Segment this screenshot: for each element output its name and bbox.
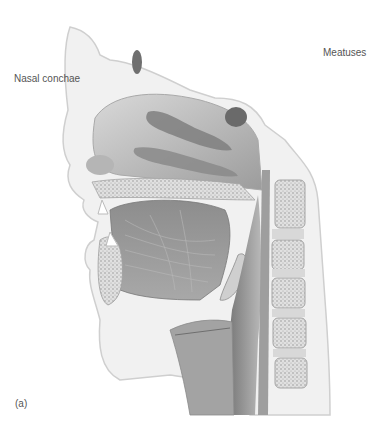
label-meatuses: Meatuses <box>323 47 366 58</box>
sphenoid-sinus <box>225 107 247 127</box>
anatomy-illustration <box>0 0 377 422</box>
panel-label: (a) <box>15 398 27 409</box>
cervical-spine <box>272 180 307 388</box>
frontal-sinus <box>132 50 142 74</box>
nostril <box>86 155 114 175</box>
tongue <box>110 200 230 300</box>
label-nasal-conchae: Nasal conchae <box>14 73 80 84</box>
